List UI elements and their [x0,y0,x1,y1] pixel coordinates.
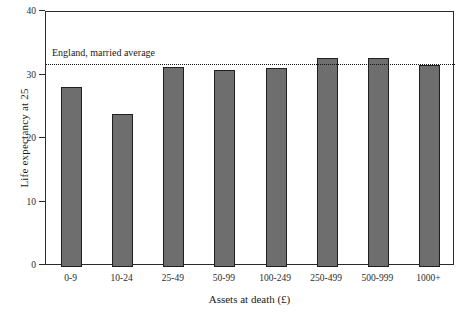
bar-10-24 [112,114,133,267]
plot-area: England, married average [45,11,454,265]
x-tick-label-1000+: 1000+ [398,272,458,284]
y-tick-label: 30 [10,70,36,80]
bar-25-49 [163,67,184,267]
y-tick-label: 10 [10,197,36,207]
bar-1000+ [419,65,440,267]
y-tick-label: 20 [10,133,36,143]
y-tick-label: 0 [10,260,36,270]
average-reference-label: England, married average [52,47,155,59]
bar-250-499 [317,58,338,267]
bar-50-99 [214,70,235,267]
bar-0-9 [61,87,82,267]
y-tick-label: 40 [10,6,36,16]
x-axis-title: Assets at death (£) [45,292,454,306]
bar-500-999 [368,58,389,267]
bar-100-249 [266,68,287,267]
average-reference-line [46,64,455,65]
chart-figure: Life expectancy at 25 010203040 England,… [0,0,464,322]
